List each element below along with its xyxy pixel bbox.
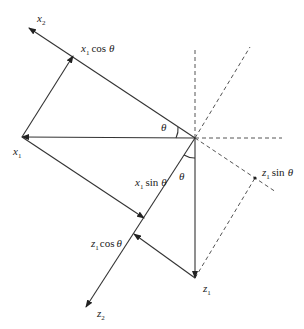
x1-point-label: x1: [12, 145, 22, 160]
x1-vector: [22, 137, 195, 138]
angle-arc-bottom: [184, 155, 195, 158]
x2-axis-label: x2: [36, 12, 46, 27]
x1-to-x2-projection: [22, 56, 73, 137]
z1-to-z2-projection: [134, 234, 195, 278]
rotation-diagram: x2 x1cosθ x1 θ θ x1sinθ z1sinθ z1cosθ z1…: [0, 0, 304, 329]
x1-cos-label: x1cosθ: [80, 42, 115, 57]
z1-point-label: z1: [202, 282, 211, 297]
x1-to-z2-projection: [22, 137, 144, 218]
angle-label-bottom: θ: [179, 170, 185, 182]
z2-axis: [86, 138, 195, 307]
dashed-diagonal-axis-up: [195, 47, 250, 138]
z1sin-point-marker: [253, 176, 256, 179]
angle-arc-top: [176, 127, 178, 138]
dashed-x2-extension: [195, 138, 276, 192]
z2-axis-label: z2: [96, 307, 105, 322]
dashed-z1-to-z1sin: [195, 178, 255, 278]
angle-label-top: θ: [161, 121, 167, 133]
z1-cos-label: z1cosθ: [90, 237, 122, 252]
z1-sin-label: z1sinθ: [261, 166, 294, 181]
